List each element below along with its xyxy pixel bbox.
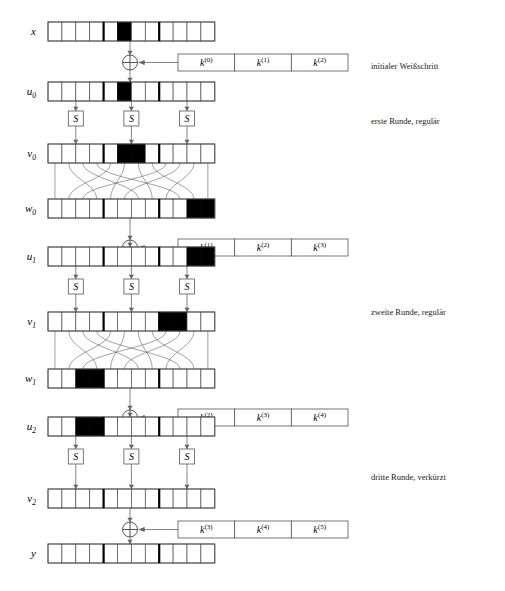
flow-w0-to-xor1 — [127, 218, 132, 240]
sbox-round-3-out-1 — [129, 464, 134, 489]
permutation-round-1-wire-7 — [152, 163, 194, 199]
spn-canvas: k(0)k(1)k(2)SSSk(1)k(2)k(3)SSSk(2)k(3)k(… — [0, 0, 505, 591]
cell-u1-10 — [173, 247, 187, 266]
cell-u2-9 — [159, 417, 173, 436]
cell-v2-9 — [159, 489, 173, 508]
cell-v0-6 — [118, 144, 132, 163]
cell-u0-5 — [104, 82, 118, 101]
permutation-round-1 — [55, 163, 208, 199]
cell-row-y: y — [30, 544, 215, 563]
cell-u0-10 — [173, 82, 187, 101]
cell-u0-12 — [201, 82, 215, 101]
cell-x-6 — [118, 22, 132, 41]
cell-y-11 — [187, 544, 201, 563]
sbox-round-3-label-2: S — [185, 451, 190, 462]
cell-v2-10 — [173, 489, 187, 508]
permutation-round-2-wire-9 — [124, 331, 180, 369]
cell-v0-4 — [90, 144, 104, 163]
cell-row-w1: w1 — [25, 369, 215, 388]
cell-u0-7 — [131, 82, 145, 101]
sbox-round-1: SSS — [68, 111, 194, 126]
cell-y-12 — [201, 544, 215, 563]
permutation-round-2-wire-6 — [138, 331, 152, 369]
permutation-round-2-wire-2 — [83, 331, 139, 369]
cell-v2-5 — [104, 489, 118, 508]
cell-u1-2 — [62, 247, 76, 266]
cell-y-4 — [90, 544, 104, 563]
cell-w1-7 — [131, 369, 145, 388]
flow-xor3-to-y — [127, 537, 132, 544]
cell-v0-9 — [159, 144, 173, 163]
cell-v1-2 — [62, 312, 76, 331]
cell-y-2 — [62, 544, 76, 563]
cell-w0-3 — [76, 199, 90, 218]
cell-v0-10 — [173, 144, 187, 163]
annotation-round-3: dritte Runde, verkürzt — [371, 472, 446, 482]
cell-u0-11 — [187, 82, 201, 101]
cell-y-1 — [48, 544, 62, 563]
sbox-round-2-out-0 — [73, 294, 78, 312]
sbox-round-3-in-2 — [184, 436, 189, 449]
cell-w1-9 — [159, 369, 173, 388]
spn-diagram: k(0)k(1)k(2)SSSk(1)k(2)k(3)SSSk(2)k(3)k(… — [0, 0, 505, 591]
sbox-round-2-in-2 — [184, 266, 189, 279]
flow-v2-to-xor3 — [127, 508, 132, 522]
cell-v1-4 — [90, 312, 104, 331]
cell-v2-8 — [145, 489, 159, 508]
key-round-0: k(0)k(1)k(2) — [138, 54, 348, 71]
cell-y-9 — [159, 544, 173, 563]
permutation-round-1-wire-6 — [138, 163, 152, 199]
cell-x-1 — [48, 22, 62, 41]
cell-v2-1 — [48, 489, 62, 508]
cell-v2-2 — [62, 489, 76, 508]
sbox-round-1-in-0 — [73, 101, 78, 111]
cell-v1-5 — [104, 312, 118, 331]
annotation-initial: initialer Weißschritt — [371, 61, 439, 71]
row-label-u2: u2 — [27, 420, 37, 435]
cell-u1-5 — [104, 247, 118, 266]
cell-u0-4 — [90, 82, 104, 101]
cell-v1-8 — [145, 312, 159, 331]
cell-w0-12 — [201, 199, 215, 218]
cell-row-v0: v0 — [27, 144, 214, 163]
cell-u2-4 — [90, 417, 104, 436]
cell-v2-12 — [201, 489, 215, 508]
cell-u1-6 — [118, 247, 132, 266]
cell-w0-2 — [62, 199, 76, 218]
row-label-w1: w1 — [25, 372, 36, 387]
cell-u2-1 — [48, 417, 62, 436]
sbox-round-3-label-0: S — [73, 451, 78, 462]
permutation-round-1-wire-1 — [69, 163, 97, 199]
cell-u1-11 — [187, 247, 201, 266]
permutation-round-1-wire-4 — [69, 163, 111, 199]
sbox-round-2-in-1 — [129, 266, 134, 279]
row-label-v2: v2 — [27, 492, 36, 507]
cell-u2-5 — [104, 417, 118, 436]
cell-x-8 — [145, 22, 159, 41]
row-label-v0: v0 — [27, 147, 36, 162]
cell-y-8 — [145, 544, 159, 563]
cell-v2-11 — [187, 489, 201, 508]
cell-w1-8 — [145, 369, 159, 388]
cell-u2-6 — [118, 417, 132, 436]
cell-v0-12 — [201, 144, 215, 163]
cell-row-w0: w0 — [25, 199, 215, 218]
cell-y-3 — [76, 544, 90, 563]
permutation-round-2-wire-10 — [166, 331, 194, 369]
cell-w1-10 — [173, 369, 187, 388]
flow-xor0-to-u0 — [127, 70, 132, 82]
cell-w0-8 — [145, 199, 159, 218]
row-label-u1: u1 — [27, 250, 36, 265]
cell-v1-12 — [201, 312, 215, 331]
cell-v0-1 — [48, 144, 62, 163]
cell-v0-11 — [187, 144, 201, 163]
cell-w0-4 — [90, 199, 104, 218]
cell-w0-7 — [131, 199, 145, 218]
sbox-round-1-in-1 — [129, 101, 134, 111]
permutation-round-2-wire-7 — [152, 331, 194, 369]
cell-u2-12 — [201, 417, 215, 436]
cell-w1-12 — [201, 369, 215, 388]
cell-v0-2 — [62, 144, 76, 163]
cell-w0-1 — [48, 199, 62, 218]
cell-u2-7 — [131, 417, 145, 436]
